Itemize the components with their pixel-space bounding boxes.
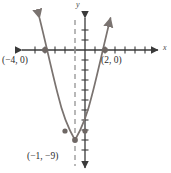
right-intercept-label: (2, 0) [101,56,122,66]
x-axis-label: x [163,44,167,52]
y-axis-label: y [76,1,80,9]
point-right-intercept [102,47,108,53]
y-axis [82,18,89,168]
coordinate-plane-svg [0,0,171,173]
point-left-symmetric [62,128,67,133]
point-right-symmetric [82,128,87,133]
graph-figure: (−4, 0) (2, 0) (−1, −9) y x [0,0,171,173]
point-vertex [72,137,78,143]
vertex-label: (−1, −9) [27,152,58,162]
point-left-intercept [42,47,48,53]
left-intercept-label: (−4, 0) [2,56,28,66]
